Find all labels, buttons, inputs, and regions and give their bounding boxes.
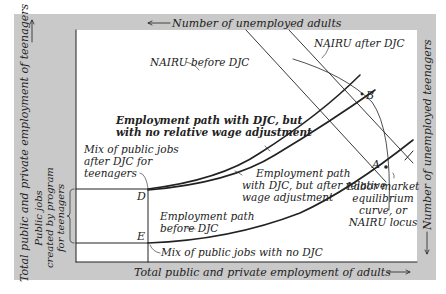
nairu-before-label: NAIRU before DJC: [150, 56, 249, 68]
point-a-label: A: [372, 158, 380, 171]
point-d-label: D: [137, 190, 146, 203]
point-e-label: E: [137, 230, 145, 243]
path-before-label: Employment path before DJC: [160, 210, 254, 234]
point-b-label: B: [366, 89, 374, 102]
public-jobs-label: Public jobs created by program for teena…: [33, 168, 66, 268]
point-b-marker: [361, 93, 364, 96]
equilibrium-label: Labor market equilibrium curve, or NAIRU…: [338, 180, 428, 228]
mix-no-djc-label: Mix of public jobs with no DJC: [161, 246, 323, 258]
nairu-after-label: NAIRU after DJC: [314, 37, 405, 49]
top-axis-label: Number of unemployed adults: [172, 17, 341, 30]
left-axis-label: Total public and private employment of t…: [18, 22, 31, 282]
bottom-axis-label: Total public and private employment of a…: [134, 266, 391, 279]
mix-after-label: Mix of public jobs after DJC for teenage…: [84, 143, 179, 179]
path-no-adjust-label: Employment path with DJC, but with no re…: [116, 114, 312, 138]
